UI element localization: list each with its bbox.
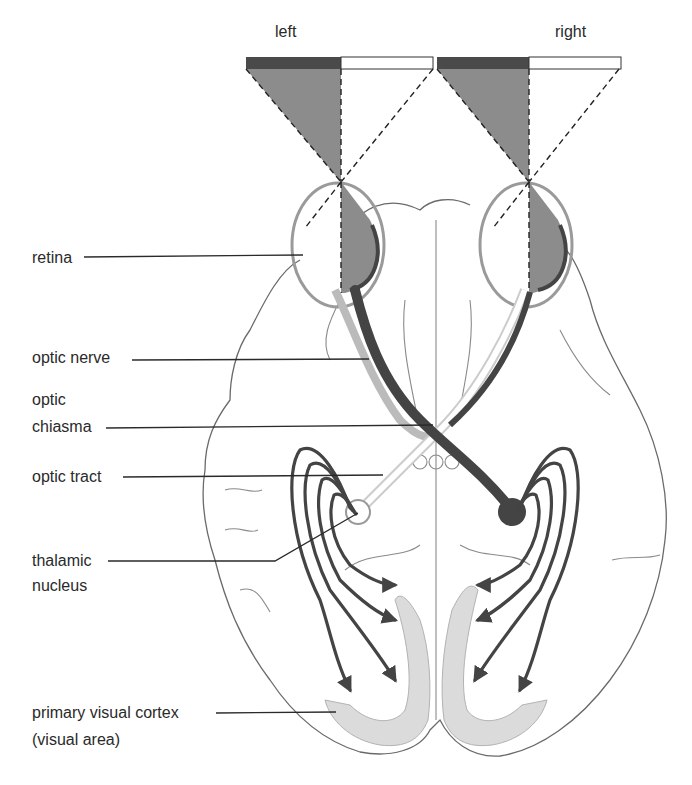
label-text: primary visual cortex [32, 704, 179, 721]
optic-pathways [335, 290, 530, 526]
left-eye [292, 182, 384, 307]
label-retina: retina [32, 249, 303, 266]
optic-radiations [292, 448, 578, 690]
right-visual-field [437, 57, 621, 182]
visual-pathway-diagram: left right [0, 0, 692, 785]
visual-field-label-left: left [275, 23, 297, 40]
label-text: nucleus [32, 577, 87, 594]
brain-outline [203, 200, 666, 757]
visual-field-label-right: right [555, 23, 587, 40]
label-text: optic [32, 391, 66, 408]
label-text: thalamic [32, 552, 92, 569]
label-optic-chiasma: optic chiasma [32, 391, 433, 435]
label-text: optic tract [32, 468, 102, 485]
label-text: chiasma [32, 418, 92, 435]
right-eye [480, 182, 572, 307]
label-text: (visual area) [32, 731, 120, 748]
left-visual-field [246, 57, 433, 182]
label-primary-visual-cortex: primary visual cortex (visual area) [32, 704, 336, 748]
label-text: optic nerve [32, 349, 110, 366]
label-optic-nerve: optic nerve [32, 349, 369, 366]
label-text: retina [32, 249, 72, 266]
